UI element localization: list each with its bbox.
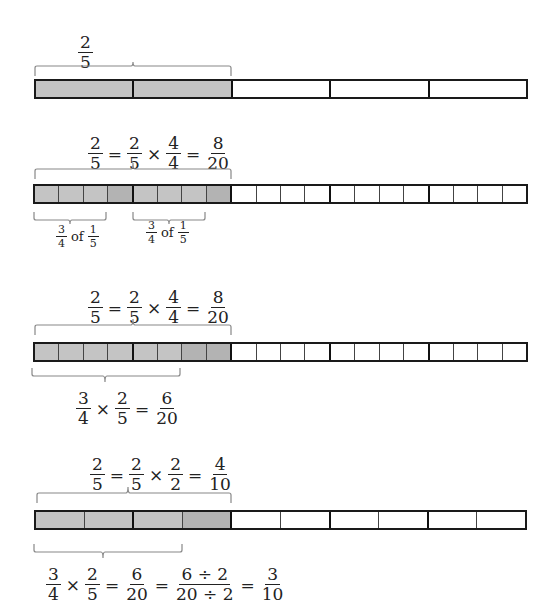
bar-part (230, 512, 280, 528)
bar-part (36, 512, 84, 528)
fraction-bar (34, 79, 528, 99)
fraction-bar (33, 342, 528, 362)
bar-part (83, 344, 107, 360)
top-brace (36, 487, 234, 505)
bar-part (132, 344, 157, 360)
bar-part (35, 186, 58, 202)
bar-part (379, 344, 403, 360)
bar-part (427, 512, 477, 528)
bar-part (107, 344, 131, 360)
bar-part (206, 186, 230, 202)
bottom-brace-1 (33, 212, 108, 224)
bar-part (36, 81, 132, 97)
bottom-equation: 34 × 25 = 620 (74, 390, 182, 427)
bar-part (132, 186, 157, 202)
bottom-equation: 34 × 25 = 620 = 6 ÷ 220 ÷ 2 = 310 (44, 566, 287, 603)
bar-part (477, 344, 501, 360)
bar-part (403, 186, 427, 202)
bar-part (256, 344, 280, 360)
bar-part (379, 186, 403, 202)
fraction-bar (33, 184, 528, 204)
bar-part (230, 344, 255, 360)
bar-part (231, 81, 329, 97)
bar-part (181, 186, 205, 202)
bar-part (206, 344, 230, 360)
bar-part (182, 512, 231, 528)
bar-part (280, 186, 304, 202)
bar-part (453, 186, 477, 202)
bottom-brace (31, 368, 183, 382)
bar-part (107, 186, 131, 202)
bar-part (83, 186, 107, 202)
bar-part (329, 81, 427, 97)
bottom-label-1: 34 of 15 (54, 224, 101, 249)
top-brace (34, 163, 232, 181)
bar-part (378, 512, 427, 528)
fraction-bar (34, 510, 527, 530)
bottom-label-2: 34 of 15 (144, 220, 191, 245)
top-brace (34, 62, 232, 78)
bar-part (181, 344, 205, 360)
bar-part (157, 344, 181, 360)
bar-part (304, 344, 328, 360)
bar-part (58, 344, 82, 360)
bar-part (280, 512, 329, 528)
bar-part (428, 344, 453, 360)
bar-part (428, 81, 526, 97)
bar-part (35, 344, 58, 360)
bar-part (304, 186, 328, 202)
bar-part (256, 186, 280, 202)
bar-part (502, 344, 526, 360)
bottom-brace (33, 544, 185, 558)
bar-part (354, 344, 378, 360)
bar-part (132, 512, 182, 528)
bar-part (329, 512, 379, 528)
bar-part (329, 186, 354, 202)
bar-part (84, 512, 133, 528)
bar-part (329, 344, 354, 360)
bar-part (230, 186, 255, 202)
bar-part (453, 344, 477, 360)
bar-part (354, 186, 378, 202)
bar-part (280, 344, 304, 360)
bar-part (428, 186, 453, 202)
top-brace (34, 319, 232, 337)
bar-part (157, 186, 181, 202)
bar-part (403, 344, 427, 360)
bar-part (477, 186, 501, 202)
bar-part (58, 186, 82, 202)
bar-part (132, 81, 230, 97)
bar-part (476, 512, 525, 528)
bar-part (502, 186, 526, 202)
